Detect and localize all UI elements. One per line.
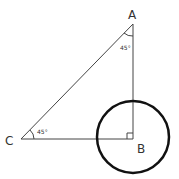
- angle-arc-a: [124, 33, 133, 36]
- angle-arc-c: [30, 130, 34, 139]
- angle-label-c: 45°: [37, 128, 48, 135]
- triangle-diagram: A B C 45° 45°: [0, 0, 179, 179]
- vertex-label-c: C: [5, 134, 13, 148]
- angle-label-a: 45°: [120, 44, 131, 51]
- right-angle-marker: [127, 133, 133, 139]
- side-ca: [21, 24, 133, 139]
- vertex-label-b: B: [137, 142, 145, 156]
- vertex-label-a: A: [128, 8, 137, 22]
